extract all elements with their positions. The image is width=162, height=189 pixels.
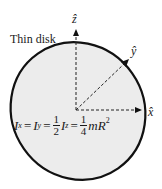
title-label: Thin disk bbox=[10, 32, 56, 47]
half-denominator: 2 bbox=[54, 126, 60, 137]
eq-1: = bbox=[24, 118, 31, 134]
z-arrowhead-icon bbox=[73, 29, 79, 36]
fraction-half: 1 2 bbox=[53, 114, 61, 137]
fraction-quarter: 1 4 bbox=[80, 114, 88, 137]
inertia-formula: Ix = Iy = 1 2 Iz = 1 4 mR2 bbox=[14, 114, 110, 137]
y-axis-label: ŷ bbox=[131, 44, 136, 59]
iz-sub: z bbox=[65, 121, 68, 130]
eq-2: = bbox=[43, 118, 50, 134]
x-axis-label: x̂ bbox=[148, 105, 153, 120]
z-axis-label: ẑ bbox=[72, 12, 77, 27]
eq-3: = bbox=[70, 118, 77, 134]
iy-sub: y bbox=[38, 121, 42, 130]
mass-radius: mR bbox=[88, 118, 105, 134]
radius-exponent: 2 bbox=[106, 116, 110, 125]
disk-diagram bbox=[0, 0, 162, 189]
quarter-denominator: 4 bbox=[81, 126, 87, 137]
ix-sub: x bbox=[18, 121, 22, 130]
